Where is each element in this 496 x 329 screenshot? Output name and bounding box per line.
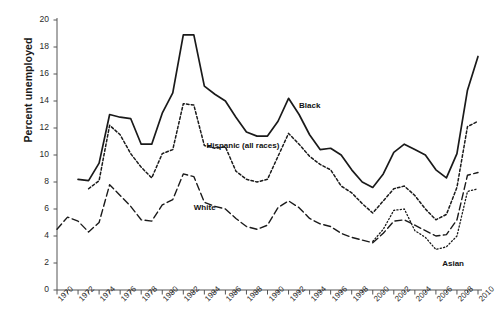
series-line-black — [78, 35, 478, 188]
series-label-asian: Asian — [442, 259, 464, 268]
y-tick-label: 20 — [19, 14, 49, 24]
y-tick-label: 8 — [19, 176, 49, 186]
series-label-white: White — [194, 203, 216, 212]
y-tick-label: 18 — [19, 41, 49, 51]
y-tick-label: 0 — [19, 284, 49, 294]
y-tick-label: 16 — [19, 68, 49, 78]
y-tick-label: 12 — [19, 122, 49, 132]
y-tick-label: 10 — [19, 149, 49, 159]
y-tick-label: 14 — [19, 95, 49, 105]
series-label-hispanic-all-races: Hispanic (all races) — [206, 141, 279, 150]
y-tick-label: 4 — [19, 230, 49, 240]
series-label-black: Black — [299, 101, 320, 110]
series-line-white — [57, 173, 478, 243]
series-line-hispanic-all-races — [89, 104, 478, 220]
y-tick-label: 6 — [19, 203, 49, 213]
y-tick-label: 2 — [19, 257, 49, 267]
